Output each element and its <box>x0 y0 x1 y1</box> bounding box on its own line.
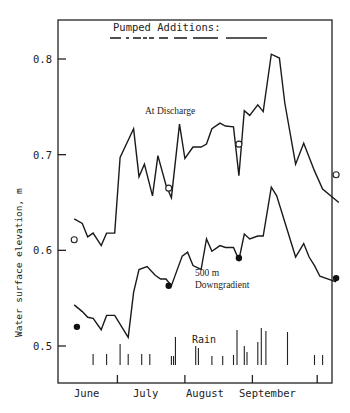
open-circle-marker <box>333 172 339 178</box>
open-circle-marker <box>166 185 172 191</box>
downgradient-series-line <box>74 187 336 337</box>
x-tick-label: July <box>133 387 158 399</box>
open-circle-marker <box>236 141 242 147</box>
x-axis: JuneJulyAugustSeptember <box>74 375 317 399</box>
filled-circle-marker <box>333 275 339 281</box>
filled-circle-marker <box>236 255 242 261</box>
y-tick-label: 0.6 <box>33 244 52 256</box>
x-tick-label: August <box>186 387 224 399</box>
plot-frame <box>58 20 332 383</box>
y-axis: 0.50.60.70.8 <box>33 53 66 352</box>
x-tick-label: September <box>239 387 296 399</box>
downgradient-measured-markers <box>74 255 340 330</box>
y-tick-label: 0.7 <box>33 149 52 161</box>
y-tick-label: 0.5 <box>33 340 52 352</box>
downgradient-series-label-name: Downgradient <box>195 280 250 290</box>
y-axis-label: Water surface elevation, m <box>13 188 24 337</box>
water-elevation-chart: Pumped Additions: 0.50.60.70.8 Water sur… <box>0 0 350 413</box>
pumped-additions-label: Pumped Additions: <box>113 21 220 33</box>
filled-circle-marker <box>74 324 80 330</box>
downgradient-series-label-distance: 500 m <box>195 268 220 278</box>
discharge-series-label: At Discharge <box>145 106 195 116</box>
rain-label: Rain <box>192 334 216 345</box>
x-tick-label: June <box>74 387 99 399</box>
discharge-series-line <box>74 54 339 245</box>
filled-circle-marker <box>166 283 172 289</box>
y-tick-label: 0.8 <box>33 53 52 65</box>
open-circle-marker <box>71 237 77 243</box>
